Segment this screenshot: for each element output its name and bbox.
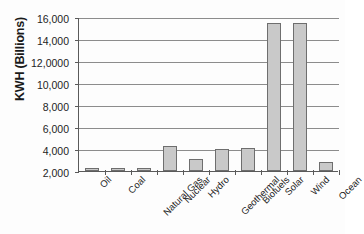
bar-group (235, 17, 261, 171)
bar (111, 168, 125, 171)
bar-group (209, 17, 235, 171)
x-axis-category-labels: OilCoalNatural GasNuclearHydroGeothermal… (78, 174, 338, 232)
y-axis-tick-label: 16,000 (37, 13, 69, 25)
y-axis-tick-label: 2,000 (43, 167, 69, 179)
y-axis-tick-label: 10,000 (37, 79, 69, 91)
x-axis-category-label: Oil (98, 174, 114, 190)
x-axis-category-label: Ocean (336, 174, 364, 202)
bars (79, 17, 339, 171)
bar (293, 23, 307, 171)
bar (267, 23, 281, 171)
bar-group (157, 17, 183, 171)
x-axis-category-label: Wind (308, 174, 331, 197)
bar (85, 168, 99, 171)
bar (215, 149, 229, 171)
bar-group (105, 17, 131, 171)
x-axis-tick (339, 170, 340, 175)
y-axis-tick-label: 14,000 (37, 35, 69, 47)
bar-group (313, 17, 339, 171)
plot-area: 16,00014,00012,000010,0008,0006,0004,000… (78, 18, 338, 172)
y-axis-tick-label: 12,0000 (31, 57, 69, 69)
bar-group (183, 17, 209, 171)
bar (189, 159, 203, 171)
y-axis-tick-label: 8,000 (43, 101, 69, 113)
bar (137, 168, 151, 171)
bar (241, 148, 255, 171)
y-axis-tick-label: 6,000 (43, 123, 69, 135)
y-axis-tick-label: 4,000 (43, 145, 69, 157)
x-axis-category-label: Coal (126, 174, 148, 196)
bar-group (261, 17, 287, 171)
bar-group (79, 17, 105, 171)
bar-group (131, 17, 157, 171)
y-axis-title: KWH (Billions) (13, 0, 27, 129)
bar (319, 162, 333, 171)
y-axis-tick: 2,000 (75, 172, 79, 173)
bar-group (287, 17, 313, 171)
bar (163, 146, 177, 171)
